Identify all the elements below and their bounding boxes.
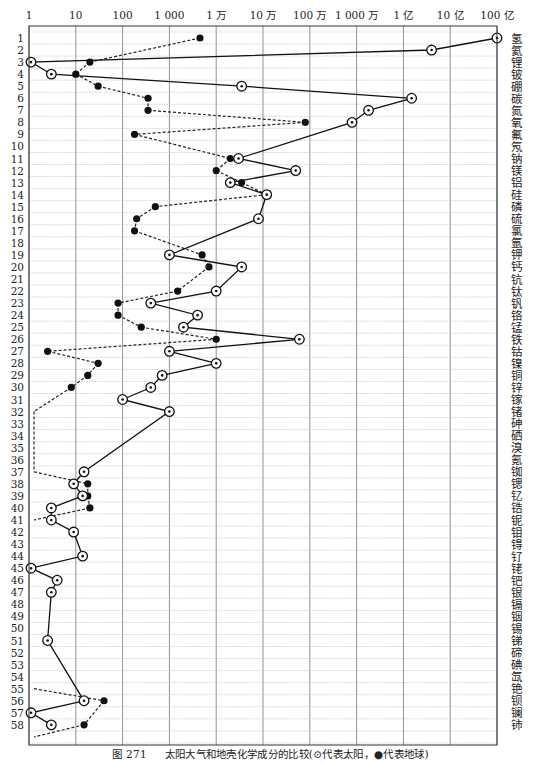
earth-marker	[144, 107, 151, 114]
row-number: 58	[11, 719, 24, 731]
row-number: 27	[11, 345, 24, 357]
earth-marker	[114, 312, 121, 319]
row-number: 30	[11, 381, 24, 393]
row-number: 3	[17, 56, 24, 68]
earth-series	[34, 34, 309, 737]
x-tick-label: 1 亿	[393, 9, 413, 21]
earth-marker	[86, 504, 93, 511]
row-number: 38	[11, 478, 24, 490]
row-number: 26	[11, 333, 25, 345]
row-number: 9	[17, 128, 24, 140]
row-number: 25	[11, 321, 24, 333]
row-number: 49	[11, 610, 24, 622]
earth-marker	[84, 372, 91, 379]
x-tick-label: 100	[113, 9, 133, 21]
row-number: 41	[11, 514, 24, 526]
row-number: 55	[11, 683, 24, 695]
element-name-labels: 氢氦锂铍硼碳氮氧氟氖钠镁铝硅磷硫氯氩钾钙钪钛钒铬锰铁钴镍铜锌镓锗砷硒溴氪铷锶钇锆…	[511, 32, 523, 733]
row-number: 48	[11, 598, 24, 610]
figure-caption: 图 271 太阳大气和地壳化学成分的比较(⊙代表太阳，●代表地球)	[0, 746, 541, 761]
row-number: 51	[11, 635, 24, 647]
earth-marker	[152, 203, 159, 210]
row-number: 39	[11, 490, 24, 502]
row-number: 56	[11, 695, 25, 707]
row-number: 17	[11, 225, 24, 237]
earth-marker	[227, 155, 234, 162]
earth-marker	[84, 480, 91, 487]
row-number: 54	[11, 671, 25, 683]
earth-marker	[138, 324, 145, 331]
row-number: 12	[11, 165, 24, 177]
row-number: 15	[11, 201, 24, 213]
x-tick-label: 100 万	[293, 9, 326, 21]
earth-marker	[199, 251, 206, 258]
earth-marker	[205, 263, 212, 270]
earth-marker	[86, 59, 93, 66]
x-tick-label: 10 万	[250, 9, 277, 21]
chart-svg: 1101001 0001 万10 万100 万1 000 万1 亿10 亿100…	[0, 0, 541, 746]
row-number: 19	[11, 249, 24, 261]
row-number: 14	[11, 189, 25, 201]
earth-marker	[95, 360, 102, 367]
row-number: 47	[11, 586, 24, 598]
x-tick-label: 10 亿	[437, 9, 464, 21]
row-number: 2	[17, 44, 24, 56]
row-number: 50	[11, 622, 24, 634]
earth-marker	[213, 336, 220, 343]
row-number: 23	[11, 297, 24, 309]
row-number: 57	[11, 707, 24, 719]
row-number: 44	[11, 550, 25, 562]
earth-marker	[44, 348, 51, 355]
element-label: 铈	[511, 718, 523, 732]
earth-marker	[196, 34, 203, 41]
x-tick-label: 1 万	[206, 9, 226, 21]
row-number: 13	[11, 177, 24, 189]
row-number: 6	[17, 92, 24, 104]
earth-marker	[213, 167, 220, 174]
row-number: 34	[11, 430, 25, 442]
row-number: 28	[11, 357, 24, 369]
row-number: 7	[17, 104, 24, 116]
row-number: 10	[11, 140, 24, 152]
chart: 1101001 0001 万10 万100 万1 000 万1 亿10 亿100…	[0, 0, 541, 764]
earth-marker	[95, 83, 102, 90]
x-tick-label: 1	[26, 9, 33, 21]
row-number: 53	[11, 659, 24, 671]
row-number: 1	[17, 32, 24, 44]
row-number: 8	[17, 116, 24, 128]
grid-lines	[29, 26, 497, 745]
row-number: 35	[11, 442, 24, 454]
x-tick-label: 1 000 万	[335, 9, 378, 21]
earth-marker	[72, 71, 79, 78]
x-tick-label: 100 亿	[480, 9, 513, 21]
row-number: 32	[11, 406, 24, 418]
earth-marker	[100, 697, 107, 704]
row-number: 43	[11, 538, 24, 550]
row-number: 46	[11, 574, 25, 586]
row-number: 52	[11, 647, 24, 659]
row-number: 24	[11, 309, 25, 321]
figure-number: 图 271	[112, 748, 147, 760]
earth-marker	[68, 384, 75, 391]
earth-marker	[114, 300, 121, 307]
row-number: 11	[11, 153, 24, 165]
row-number: 18	[11, 237, 24, 249]
row-number: 36	[11, 454, 25, 466]
earth-marker	[302, 119, 309, 126]
x-tick-label: 10	[69, 9, 82, 21]
x-tick-label: 1 000	[154, 9, 184, 21]
row-number: 5	[17, 80, 24, 92]
row-number: 20	[11, 261, 24, 273]
y-axis-row-numbers: 1234567891011121314151617181920212223242…	[11, 32, 25, 731]
row-number: 16	[11, 213, 25, 225]
row-number: 29	[11, 369, 24, 381]
row-number: 42	[11, 526, 24, 538]
figure-caption-text: 太阳大气和地壳化学成分的比较(⊙代表太阳，●代表地球)	[165, 748, 429, 760]
earth-marker	[80, 721, 87, 728]
row-number: 45	[11, 562, 24, 574]
row-number: 33	[11, 418, 24, 430]
row-number: 21	[11, 273, 24, 285]
earth-marker	[131, 131, 138, 138]
earth-marker	[131, 227, 138, 234]
earth-marker	[174, 287, 181, 294]
